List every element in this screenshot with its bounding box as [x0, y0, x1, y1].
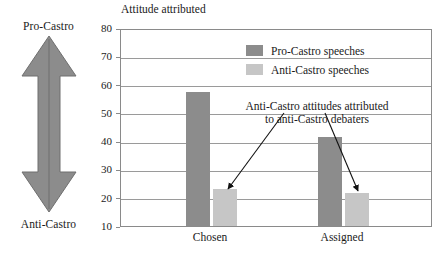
annotation-line-2: to anti-Castro debaters: [222, 113, 412, 126]
chart-figure: Pro-Castro Anti-Castro Attitude attribut…: [0, 0, 444, 256]
gridline: [121, 86, 431, 87]
bar-assigned-pro-castro: [318, 137, 342, 226]
y-axis-tick-label: 70: [86, 50, 112, 62]
legend-item-pro-castro: Pro-Castro speeches: [246, 41, 369, 60]
legend-swatch-icon: [246, 64, 263, 75]
x-axis-label-chosen: Chosen: [160, 231, 260, 243]
y-axis-tick-label: 50: [86, 107, 112, 119]
y-axis-tick-label: 30: [86, 163, 112, 175]
y-axis-tick-label: 80: [86, 22, 112, 34]
bar-chosen-anti-castro: [213, 189, 237, 226]
y-axis-tick-label: 60: [86, 79, 112, 91]
scale-bottom-label: Anti-Castro: [0, 218, 97, 230]
annotation-text: Anti-Castro attitudes attributed to anti…: [222, 100, 412, 126]
legend-label: Anti-Castro speeches: [271, 64, 369, 76]
gridline: [121, 143, 431, 144]
gridline: [121, 199, 431, 200]
bar-chosen-pro-castro: [186, 92, 210, 226]
bar-assigned-anti-castro: [345, 193, 369, 226]
double-headed-vertical-arrow-icon: [20, 36, 78, 212]
annotation-line-1: Anti-Castro attitudes attributed: [222, 100, 412, 113]
x-axis-label-assigned: Assigned: [292, 231, 392, 243]
chart-title: Attitude attributed: [121, 3, 206, 15]
y-axis-tick-label: 40: [86, 135, 112, 147]
legend-swatch-icon: [246, 45, 263, 56]
legend-label: Pro-Castro speeches: [271, 45, 365, 57]
y-axis-tick-label: 10: [86, 220, 112, 232]
gridline: [121, 171, 431, 172]
y-axis-tick-label: 20: [86, 192, 112, 204]
legend-item-anti-castro: Anti-Castro speeches: [246, 60, 369, 79]
legend: Pro-Castro speechesAnti-Castro speeches: [246, 41, 369, 79]
attitude-scale-panel: Pro-Castro Anti-Castro: [0, 0, 97, 256]
scale-top-label: Pro-Castro: [0, 20, 97, 32]
